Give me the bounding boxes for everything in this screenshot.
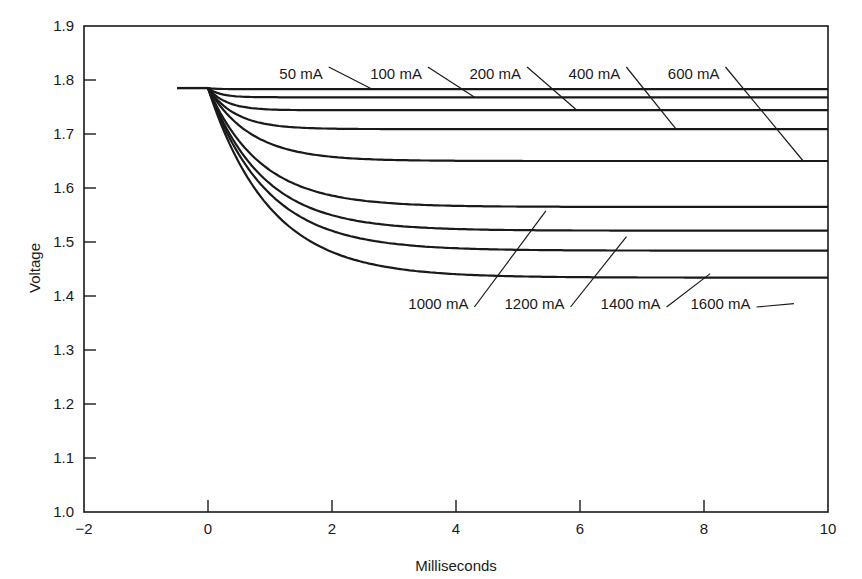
y-axis-title: Voltage	[26, 243, 43, 293]
curve-label: 1400 mA	[601, 295, 661, 312]
curve-1000ma	[208, 88, 828, 207]
leader-line	[428, 67, 475, 97]
x-tick-label: 0	[204, 520, 212, 537]
x-tick-label: 8	[700, 520, 708, 537]
curve-label: 1000 mA	[408, 295, 468, 312]
y-tick-label: 1.2	[53, 395, 74, 412]
curve-50ma	[208, 88, 828, 89]
y-axis-ticks: 1.01.11.21.31.41.51.61.71.81.9	[53, 17, 96, 520]
curve-label: 50 mA	[279, 65, 322, 82]
y-tick-label: 1.3	[53, 341, 74, 358]
y-tick-label: 1.5	[53, 233, 74, 250]
curve-label: 400 mA	[569, 65, 621, 82]
curve-label: 600 mA	[668, 65, 720, 82]
voltage-vs-time-chart: 1.01.11.21.31.41.51.61.71.81.9 −20246810…	[0, 0, 862, 579]
x-axis-ticks: −20246810	[75, 500, 836, 537]
x-tick-label: 4	[452, 520, 460, 537]
plot-border	[84, 26, 828, 512]
leader-line	[757, 304, 794, 307]
curve-200ma	[208, 88, 828, 110]
x-tick-label: −2	[75, 520, 92, 537]
y-tick-label: 1.0	[53, 503, 74, 520]
y-tick-label: 1.4	[53, 287, 74, 304]
x-tick-label: 10	[820, 520, 837, 537]
y-tick-label: 1.9	[53, 17, 74, 34]
curve-label: 200 mA	[469, 65, 521, 82]
curve-600ma	[208, 88, 828, 161]
curve-400ma	[208, 88, 828, 129]
curve-label: 1600 mA	[690, 295, 750, 312]
y-tick-label: 1.1	[53, 449, 74, 466]
y-tick-label: 1.6	[53, 179, 74, 196]
curve-1400ma	[208, 88, 828, 251]
x-axis-title: Milliseconds	[415, 557, 497, 574]
y-tick-label: 1.8	[53, 71, 74, 88]
x-tick-label: 2	[328, 520, 336, 537]
x-tick-label: 6	[576, 520, 584, 537]
curve-label: 1200 mA	[504, 295, 564, 312]
curves	[177, 88, 828, 278]
y-tick-label: 1.7	[53, 125, 74, 142]
leader-line	[726, 67, 804, 161]
curve-label: 100 mA	[370, 65, 422, 82]
leader-line	[474, 211, 546, 307]
curve-labels: 50 mA100 mA200 mA400 mA600 mA1000 mA1200…	[279, 65, 803, 312]
leader-line	[329, 67, 373, 89]
plot-frame	[84, 26, 828, 512]
